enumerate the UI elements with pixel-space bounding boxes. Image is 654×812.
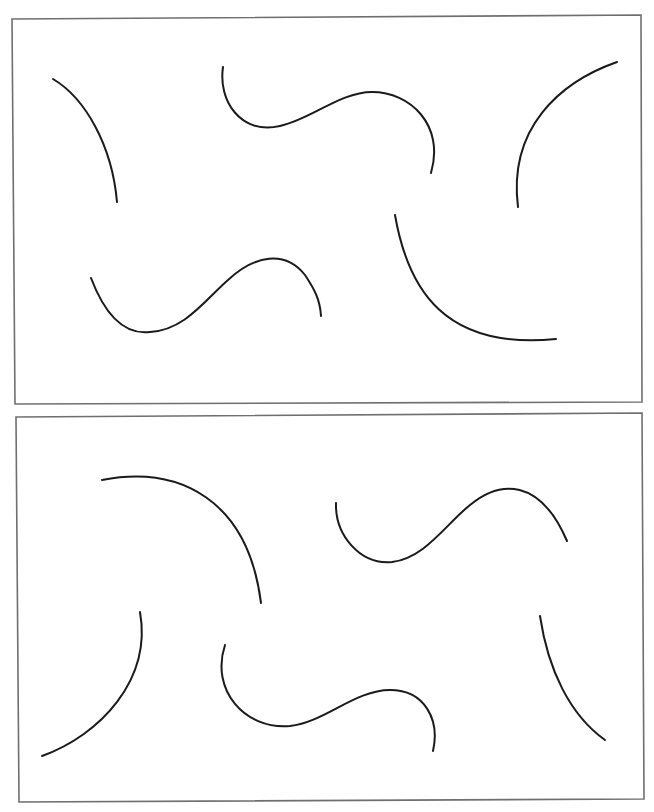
top-panel [12,15,642,404]
curve-top-bottom-right-arc [395,215,556,340]
curve-top-right-arc [517,62,617,207]
bottom-panel [16,413,644,802]
curve-bottom-right-arc [540,616,605,740]
curve-bottom-top-left-arc [102,477,261,603]
curve-bottom-left-arc [42,612,142,756]
bottom-panel-frame [16,413,644,802]
curve-top-center-wave [222,67,434,173]
top-panel-frame [12,15,642,404]
curve-top-left-arc [53,79,117,202]
curve-top-bottom-left-wave [91,259,321,333]
diagram-canvas [0,0,654,812]
curve-bottom-top-right-wave [336,489,567,562]
curve-bottom-center-wave [221,645,434,751]
